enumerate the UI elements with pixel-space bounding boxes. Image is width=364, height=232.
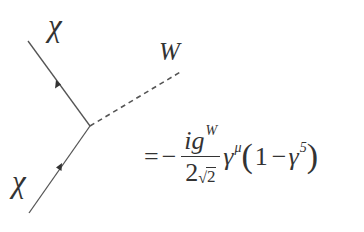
numerator-superscript: W bbox=[206, 123, 218, 138]
fraction-denominator: 2 √ 2 bbox=[185, 157, 216, 186]
w-boson-label: W bbox=[159, 39, 180, 64]
square-root: √ 2 bbox=[198, 167, 216, 186]
gamma-mu: γμ bbox=[223, 144, 241, 170]
inner-minus: − bbox=[272, 144, 287, 170]
feynman-diagram: χ W χ = − igW 2 √ 2 γμ ( 1 − γ5 ) bbox=[0, 0, 364, 232]
close-paren: ) bbox=[307, 139, 318, 173]
open-paren: ( bbox=[242, 139, 253, 173]
gamma-superscript-mu: μ bbox=[235, 140, 242, 155]
fraction-numerator: igW bbox=[181, 128, 220, 156]
gamma5-symbol: γ bbox=[289, 142, 299, 171]
chi-label-top: χ bbox=[48, 10, 62, 41]
equals-sign: = bbox=[144, 144, 159, 170]
vertex-factor-formula: = − igW 2 √ 2 γμ ( 1 − γ5 ) bbox=[144, 120, 318, 194]
chi-label-bottom: χ bbox=[12, 166, 26, 197]
minus-sign: − bbox=[162, 144, 177, 170]
gamma-symbol: γ bbox=[223, 142, 233, 171]
denominator-coefficient: 2 bbox=[185, 160, 198, 186]
fraction: igW 2 √ 2 bbox=[181, 128, 220, 186]
radicand: 2 bbox=[206, 167, 217, 186]
w-boson-dashed-line bbox=[90, 71, 182, 126]
gamma-superscript-5: 5 bbox=[300, 140, 307, 155]
one: 1 bbox=[255, 144, 268, 170]
gamma-5: γ5 bbox=[289, 144, 307, 170]
numerator-ig: ig bbox=[184, 126, 204, 155]
